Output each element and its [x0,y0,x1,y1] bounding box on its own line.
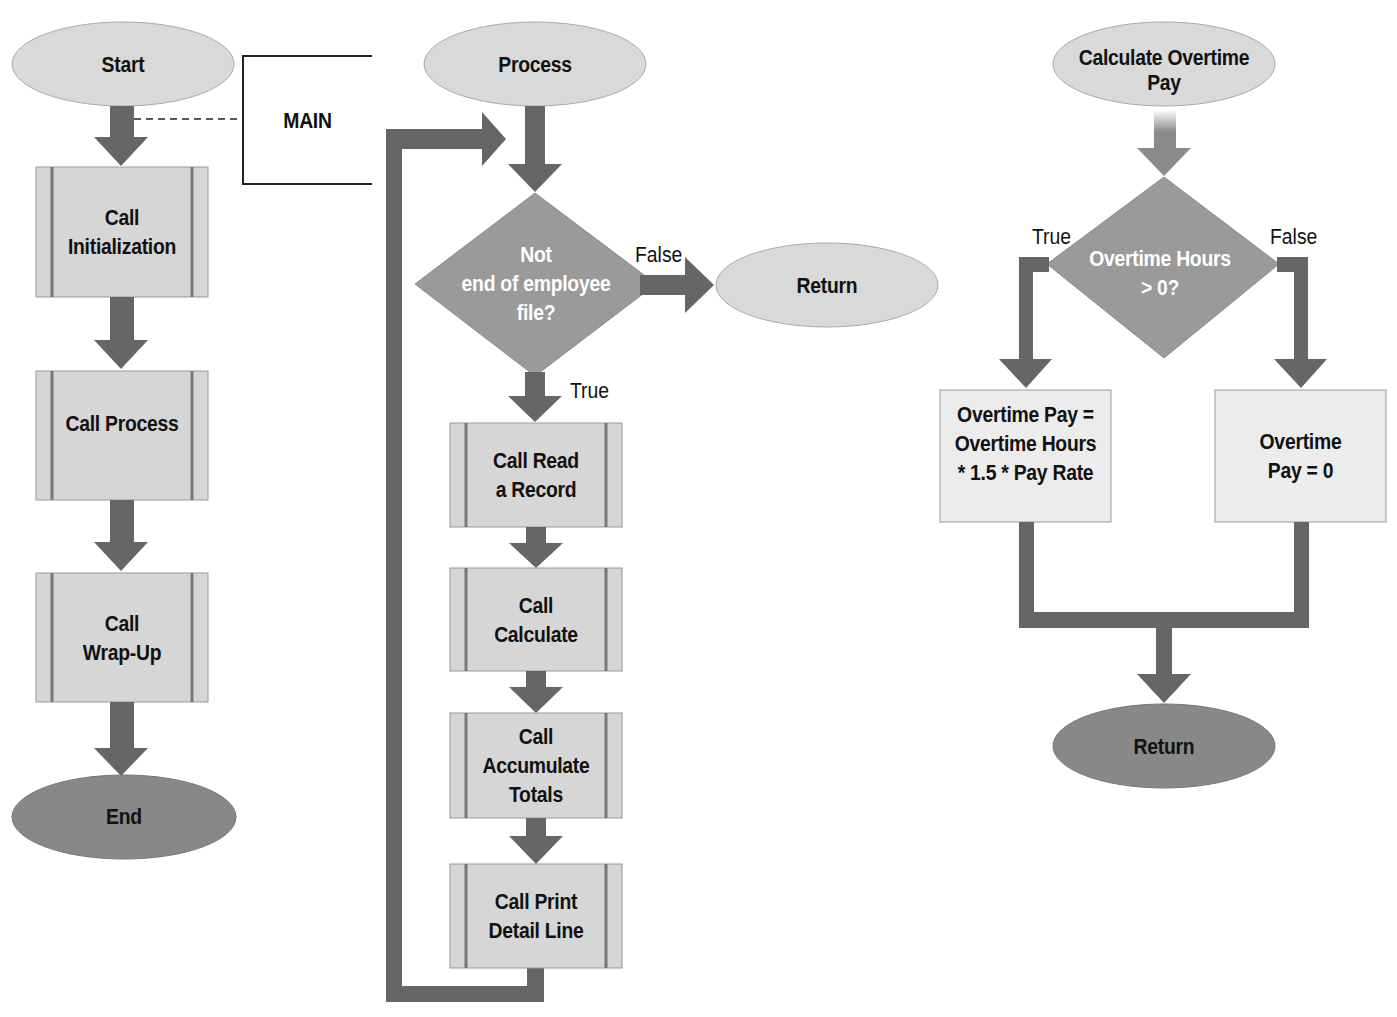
start-label: Start [25,44,220,84]
decision-line: file? [517,298,555,327]
false-edge-label: False [635,243,682,267]
step-initialization-label: Call Initialization [46,167,197,297]
overtime-return-label: Return [1066,726,1261,766]
true-edge-label: True [570,379,609,403]
decision-line: > 0? [1141,273,1179,302]
box-line: Pay = 0 [1268,456,1333,485]
false-edge-label: False [1270,225,1317,249]
step-read-record-label: Call Read a Record [460,423,611,527]
step-line: Call Print [495,887,577,916]
step-line: Wrap-Up [83,638,161,667]
decision-eof-label: Not end of employee file? [443,238,630,328]
step-line: Accumulate [482,751,589,780]
decision-line: Overtime Hours [1089,244,1231,273]
decision-overtime-label: Overtime Hours > 0? [1072,243,1248,303]
step-line: Detail Line [488,916,583,945]
step-line: Initialization [68,232,176,261]
step-accumulate-label: Call Accumulate Totals [460,713,611,818]
step-line: Calculate [494,620,578,649]
decision-line: end of employee [462,269,611,298]
flowchart-canvas [0,0,1397,1017]
step-line: a Record [496,475,577,504]
step-line: Call [105,609,139,638]
box-line: * 1.5 * Pay Rate [958,458,1094,487]
step-call-process-label: Call Process [46,371,197,475]
box-line: Overtime [1260,427,1342,456]
main-bracket-label: MAIN [257,100,358,140]
step-line: Call [105,203,139,232]
box-line: Overtime Hours [955,429,1097,458]
true-edge-label: True [1032,225,1071,249]
step-line: Call Process [65,409,178,438]
end-label: End [25,796,222,836]
arrow-shaft [110,106,134,140]
step-line: Totals [509,780,563,809]
overtime-formula-label: Overtime Pay = Overtime Hours * 1.5 * Pa… [941,390,1109,496]
step-line: Call [519,722,553,751]
step-wrap-up-label: Call Wrap-Up [46,573,197,702]
step-line: Call [519,591,553,620]
merge-connector [1019,522,1309,676]
decision-line: Not [520,240,551,269]
step-print-detail-label: Call Print Detail Line [460,864,611,968]
step-calculate-label: Call Calculate [460,568,611,671]
box-line: Overtime Pay = [957,400,1094,429]
terminal-line: Calculate Overtime [1079,45,1250,70]
overtime-start-label: Calculate Overtime Pay [1066,40,1261,100]
terminal-line: Pay [1147,70,1181,95]
step-line: Call Read [493,446,579,475]
process-start-label: Process [437,44,632,84]
arrow-head [94,137,148,166]
process-return-label: Return [729,265,924,305]
overtime-zero-label: Overtime Pay = 0 [1225,390,1375,522]
